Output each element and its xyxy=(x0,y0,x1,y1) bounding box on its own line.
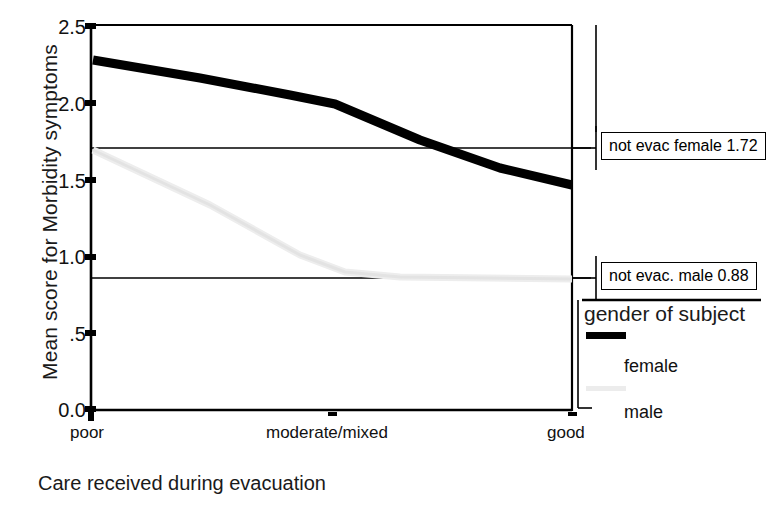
legend: gender of subject female male xyxy=(584,302,761,422)
legend-label-female: female xyxy=(624,356,678,377)
callout-not-evac-female: not evac female 1.72 xyxy=(601,132,766,160)
legend-swatch-female xyxy=(586,332,626,339)
x-axis-title: Care received during evacuation xyxy=(38,472,326,495)
x-axis-ticks xyxy=(88,411,577,421)
legend-label-male: male xyxy=(624,402,663,423)
legend-swatch-male xyxy=(586,386,626,391)
series-line-female xyxy=(93,60,572,185)
x-tick-good: good xyxy=(547,424,585,442)
x-tick-poor: poor xyxy=(70,424,104,442)
plot-frame xyxy=(91,25,572,411)
legend-title: gender of subject xyxy=(584,302,745,326)
x-tick-moderate-mixed: moderate/mixed xyxy=(266,424,388,442)
callout-not-evac-male: not evac. male 0.88 xyxy=(601,262,757,290)
